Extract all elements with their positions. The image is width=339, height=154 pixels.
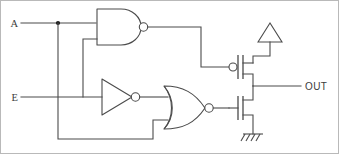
wire-e-branch-to-nand [83, 39, 97, 97]
circuit-schematic-figure: A E OUT [0, 0, 339, 154]
inverter-gate [102, 79, 140, 115]
wire-a-branch-to-nor [58, 23, 168, 139]
nand-gate [97, 9, 148, 45]
nor-output-bubble [205, 104, 213, 112]
vdd-supply-symbol [253, 23, 282, 63]
inverter-output-bubble [131, 93, 139, 101]
pmos-gate-bubble [229, 63, 237, 71]
wire-nand-out-to-pmos-gate [148, 27, 229, 67]
nmos-transistor [229, 86, 253, 134]
label-output: OUT [305, 81, 327, 92]
nor-gate [164, 86, 213, 129]
schematic-canvas: A E OUT [1, 1, 339, 154]
label-input-a: A [10, 18, 18, 29]
label-input-e: E [12, 92, 18, 103]
pmos-transistor [229, 55, 253, 86]
nand-output-bubble [139, 23, 147, 31]
ground-symbol [241, 134, 263, 141]
